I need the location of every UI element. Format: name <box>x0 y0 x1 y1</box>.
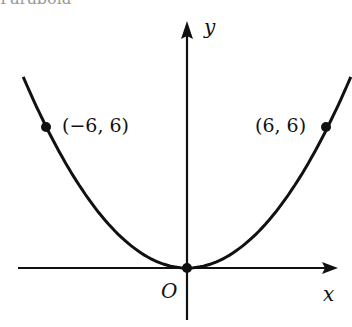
parabola-plot <box>0 0 352 327</box>
origin-label: O <box>161 279 177 303</box>
y-axis-label: y <box>204 15 215 39</box>
point-label-neg6-6: (−6, 6) <box>62 114 129 136</box>
point-6-6 <box>321 122 331 132</box>
point-label-6-6: (6, 6) <box>255 114 306 136</box>
point-neg6-6 <box>41 122 51 132</box>
x-axis-label: x <box>323 282 334 306</box>
point-origin <box>182 263 192 273</box>
